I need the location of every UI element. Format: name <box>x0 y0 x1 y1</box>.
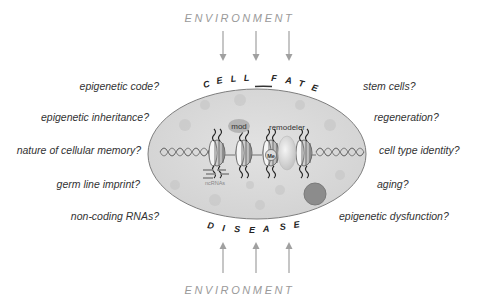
bottom-arrows <box>220 242 293 273</box>
svg-text:E: E <box>293 219 301 230</box>
question-regeneration: regeneration? <box>374 111 439 123</box>
remodeler-label: remodeler <box>269 123 305 132</box>
question-cellular-memory: nature of cellular memory? <box>17 144 141 156</box>
question-stem-cells: stem cells? <box>363 80 416 92</box>
mod-label: mod <box>231 122 247 131</box>
nucleosome-2 <box>236 140 252 166</box>
question-epigenetic-inheritance: epigenetic inheritance? <box>41 111 149 123</box>
svg-text:I: I <box>222 223 226 233</box>
svg-text:S: S <box>234 224 241 234</box>
organelle-blob <box>304 183 326 205</box>
nucleosome-4 <box>296 140 312 166</box>
question-epigenetic-code: epigenetic code? <box>80 80 159 92</box>
svg-text:C: C <box>202 79 211 90</box>
question-non-coding-rnas: non-coding RNAs? <box>71 210 159 222</box>
svg-text:F: F <box>271 73 278 83</box>
svg-text:E: E <box>249 225 256 235</box>
question-epigenetic-dysfunction: epigenetic dysfunction? <box>339 210 449 222</box>
svg-text:S: S <box>279 222 286 232</box>
ncrnas-label: ncRNAs <box>205 180 225 186</box>
svg-text:T: T <box>298 78 307 89</box>
svg-text:L: L <box>230 73 237 84</box>
svg-text:D: D <box>207 220 216 231</box>
nucleosome-1 <box>209 140 225 166</box>
svg-text:A: A <box>284 75 293 86</box>
question-germ-line-imprint: germ line imprint? <box>57 178 140 190</box>
svg-text:L: L <box>244 73 250 83</box>
question-aging: aging? <box>377 178 409 190</box>
svg-text:E: E <box>310 82 319 94</box>
top-arrows <box>220 31 293 61</box>
svg-text:E: E <box>216 75 225 86</box>
remodeler-complex <box>278 136 296 170</box>
svg-text:A: A <box>262 224 270 234</box>
disease-label: D I S E A S E <box>207 219 302 235</box>
me-label: Me <box>267 153 275 159</box>
question-cell-type-identity: cell type identity? <box>379 144 460 156</box>
